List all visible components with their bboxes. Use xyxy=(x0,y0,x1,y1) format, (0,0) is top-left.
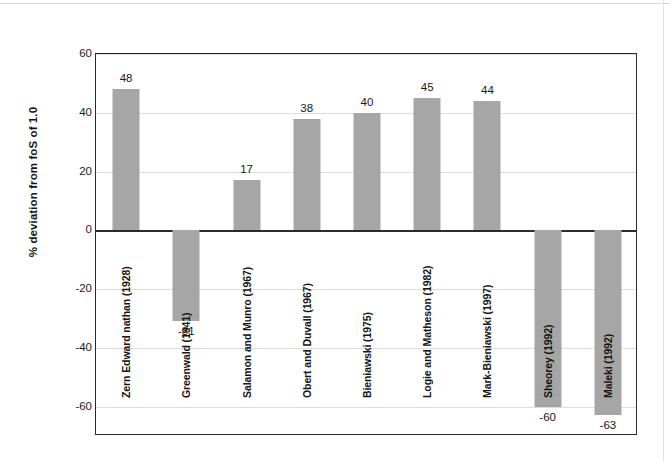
y-tick-label: -20 xyxy=(52,282,92,294)
category-label: Greenwald (1941) xyxy=(180,313,192,398)
category-label: Mark-Bieniawski (1997) xyxy=(481,285,493,398)
bar-value-label: -63 xyxy=(600,419,617,431)
category-label: Obert and Duvall (1967) xyxy=(301,283,313,398)
y-tick-label: 60 xyxy=(52,47,92,59)
bars-layer: 48Zern Edward nathan (1928)-31Greenwald … xyxy=(96,54,636,434)
bar-group[interactable]: 17Salamon and Munro (1967) xyxy=(216,54,276,434)
y-tick-label: 20 xyxy=(52,165,92,177)
bar-value-label: 38 xyxy=(300,102,313,114)
y-tick-label: 40 xyxy=(52,106,92,118)
bar[interactable] xyxy=(293,119,320,231)
bar[interactable] xyxy=(113,89,140,230)
category-label: Zern Edward nathan (1928) xyxy=(120,267,132,399)
bar-value-label: 48 xyxy=(120,72,133,84)
bar[interactable] xyxy=(414,98,441,230)
bar-value-label: 40 xyxy=(361,96,374,108)
bar[interactable] xyxy=(233,180,260,230)
bar-group[interactable]: 38Obert and Duvall (1967) xyxy=(277,54,337,434)
bar-group[interactable]: -31Greenwald (1941) xyxy=(156,54,216,434)
bar-group[interactable]: 45Logie and Matheson (1982) xyxy=(397,54,457,434)
bar-value-label: 45 xyxy=(421,81,434,93)
y-tick-label: -40 xyxy=(52,341,92,353)
plot-area: 48Zern Edward nathan (1928)-31Greenwald … xyxy=(95,53,637,435)
y-tick-label: -60 xyxy=(52,400,92,412)
bar-group[interactable]: -60Sheorey (1992) xyxy=(518,54,578,434)
bar-value-label: -60 xyxy=(539,411,556,423)
category-label: Maleki (1992) xyxy=(602,334,614,398)
y-axis-title: % deviation from foS of 1.0 xyxy=(27,82,39,282)
bar-group[interactable]: 44Mark-Bieniawski (1997) xyxy=(457,54,517,434)
category-label: Bieniawski (1975) xyxy=(361,312,373,398)
bar-chart-figure: % deviation from foS of 1.0 6040200-20-4… xyxy=(0,0,670,461)
category-label: Sheorey (1992) xyxy=(542,325,554,398)
category-label: Salamon and Munro (1967) xyxy=(241,267,253,398)
bar-group[interactable]: -63Maleki (1992) xyxy=(578,54,638,434)
bar[interactable] xyxy=(173,230,200,321)
y-axis-tick-labels: 6040200-20-40-60 xyxy=(50,0,92,461)
bar-group[interactable]: 48Zern Edward nathan (1928) xyxy=(96,54,156,434)
bar[interactable] xyxy=(474,101,501,230)
y-tick-label: 0 xyxy=(52,223,92,235)
bar-value-label: 44 xyxy=(481,84,494,96)
bar-value-label: 17 xyxy=(240,163,253,175)
bar[interactable] xyxy=(353,113,380,231)
bar-group[interactable]: 40Bieniawski (1975) xyxy=(337,54,397,434)
category-label: Logie and Matheson (1982) xyxy=(421,266,433,398)
